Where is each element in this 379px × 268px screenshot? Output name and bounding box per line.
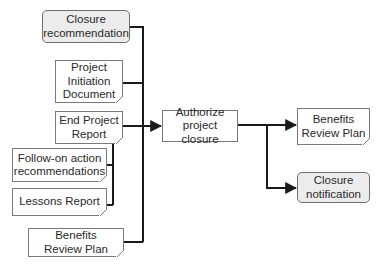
node-lessons-report: Lessons Report xyxy=(12,188,107,216)
node-follow-on-action-recommendations: Follow-on action recommendations xyxy=(12,148,107,182)
node-label: Closure notification xyxy=(306,174,361,201)
node-benefits-review-plan-output: Benefits Review Plan xyxy=(297,108,370,145)
node-label: Benefits Review Plan xyxy=(302,113,366,140)
node-project-initiation-document: Project Initiation Document xyxy=(55,60,123,103)
node-label: End Project Report xyxy=(59,114,118,141)
node-label: Benefits Review Plan xyxy=(44,229,108,256)
node-label: Project Initiation Document xyxy=(63,61,115,102)
node-authorize-project-closure: Authorize project closure xyxy=(162,110,238,142)
node-label: Authorize project closure xyxy=(163,106,237,147)
node-label: Lessons Report xyxy=(19,195,100,209)
node-end-project-report: End Project Report xyxy=(55,111,123,144)
figure-caption-cropped xyxy=(0,262,120,268)
node-closure-notification: Closure notification xyxy=(297,172,370,203)
node-label: Closure recommendation xyxy=(43,13,129,40)
node-closure-recommendation: Closure recommendation xyxy=(42,10,130,43)
connector-main-bus xyxy=(130,27,143,242)
node-label: Follow-on action recommendations xyxy=(14,152,105,179)
connector-to-closure-notification xyxy=(267,125,296,188)
node-benefits-review-plan-input: Benefits Review Plan xyxy=(28,228,124,257)
